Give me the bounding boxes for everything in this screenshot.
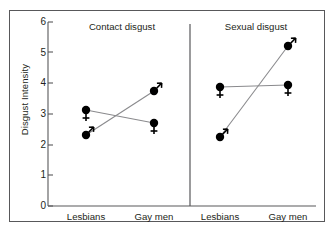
series-line-right-women	[220, 85, 288, 87]
venus-icon	[151, 127, 158, 134]
data-point-right-gaymen-men[interactable]	[284, 38, 296, 50]
data-point-left-gaymen-men[interactable]	[150, 83, 162, 95]
venus-icon	[217, 91, 224, 98]
y-axis	[48, 22, 53, 206]
data-point-left-gaymen-women[interactable]	[150, 119, 158, 134]
data-point-right-lesbians-men[interactable]	[216, 129, 228, 141]
mars-icon	[157, 83, 162, 88]
venus-icon	[285, 89, 292, 96]
series-line-left-men	[86, 91, 154, 135]
venus-icon	[83, 114, 90, 121]
data-point-right-gaymen-women[interactable]	[284, 81, 292, 96]
data-point-right-lesbians-women[interactable]	[216, 83, 224, 98]
mars-icon	[291, 38, 296, 43]
series-line-right-men	[220, 46, 288, 137]
data-point-left-lesbians-women[interactable]	[82, 106, 90, 121]
data-point-left-lesbians-men[interactable]	[82, 127, 94, 139]
chart-figure: Disgust Intensity 6 5 4 3 2 1 0 Contact …	[0, 0, 335, 237]
series-line-left-women	[86, 110, 154, 123]
plot-canvas	[0, 0, 335, 237]
